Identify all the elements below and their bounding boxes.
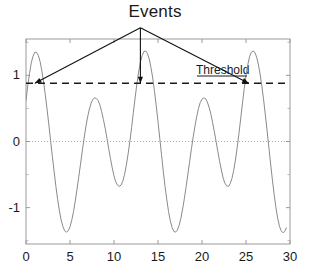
y-tick-label: -1 <box>2 200 20 215</box>
y-tick-label: 0 <box>2 134 20 149</box>
x-tick-label: 15 <box>145 249 171 264</box>
event-arrow-line <box>35 28 141 84</box>
event-arrow-line <box>140 28 248 84</box>
chart-figure: Events Threshold 10-1 051015202530 <box>0 0 310 278</box>
event-arrow-head <box>35 78 42 83</box>
y-tick-label: 1 <box>2 67 20 82</box>
plot-area <box>0 0 310 278</box>
x-tick-label: 25 <box>233 249 259 264</box>
x-tick-label: 5 <box>57 249 83 264</box>
x-tick-label: 20 <box>189 249 215 264</box>
x-tick-label: 30 <box>277 249 303 264</box>
x-tick-label: 10 <box>101 249 127 264</box>
event-arrow-head <box>138 77 143 84</box>
x-tick-label: 0 <box>13 249 39 264</box>
